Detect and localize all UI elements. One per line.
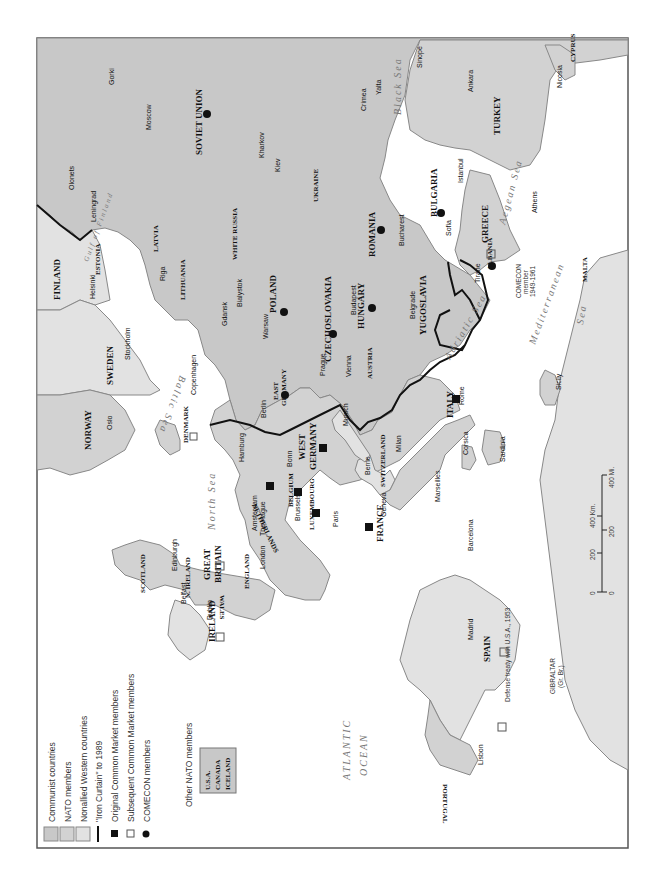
legend-label-iron-curtain: "Iron Curtain" to 1989 xyxy=(94,741,104,822)
city-stockholm: Stockholm xyxy=(124,327,131,360)
city-vienna: Vienna xyxy=(345,355,352,377)
sea-north: North Sea xyxy=(206,472,217,531)
note-albania-1: COMECON xyxy=(515,264,522,298)
label-great-britain-2: BRITAIN xyxy=(213,545,223,583)
city-edinburgh: Edinburgh xyxy=(171,539,179,571)
city-riga: Riga xyxy=(159,266,167,281)
city-olonets: Olonets xyxy=(68,165,75,190)
label-scotland: SCOTLAND xyxy=(139,554,147,593)
city-warsaw: Warsaw xyxy=(262,313,269,339)
label-wales: WALES xyxy=(218,595,226,620)
label-west-germany-1: WEST xyxy=(297,434,307,460)
legend-label-communist: Communist countries xyxy=(47,742,57,822)
note-albania-2: member xyxy=(522,269,529,294)
city-helsinki: Helsinki xyxy=(89,274,96,299)
other-nato-iceland: ICELAND xyxy=(224,758,232,790)
cm-filled-netherlands xyxy=(266,482,274,490)
label-luxembourg: LUXEMBOURG xyxy=(308,478,316,530)
label-portugal: PORTUGAL xyxy=(441,784,449,824)
label-lithuania: LITHUANIA xyxy=(179,260,187,300)
label-cyprus: CYPRUS xyxy=(569,34,577,62)
city-athens: Athens xyxy=(531,191,538,213)
label-gibraltar-note: (Gr. Br.) xyxy=(557,665,565,688)
city-oslo: Oslo xyxy=(106,416,113,431)
city-tirane: Tirane xyxy=(474,263,481,283)
label-switzerland: SWITZERLAND xyxy=(379,434,387,487)
scale-200-km: 200 xyxy=(589,549,596,560)
comecon-dot-ussr xyxy=(203,110,211,118)
city-berlin: Berlin xyxy=(260,400,267,418)
city-moscow: Moscow xyxy=(145,103,152,130)
city-nicosia: Nicosia xyxy=(556,65,563,88)
city-kiev: Kiev xyxy=(274,158,281,172)
city-gorki: Gorki xyxy=(108,68,115,85)
label-white-russia: WHITE RUSSIA xyxy=(231,208,239,260)
legend-filled-circle-icon xyxy=(143,831,150,838)
scale-0-mi: 0 xyxy=(608,591,615,595)
city-geneva: Geneva xyxy=(380,492,387,517)
cm-filled-france xyxy=(365,523,373,531)
city-crimea: Crimea xyxy=(360,88,367,111)
other-nato-canada: CANADA xyxy=(214,760,222,790)
city-yalta: Yalta xyxy=(375,79,382,95)
city-madrid: Madrid xyxy=(467,618,474,640)
comecon-dot-romania xyxy=(377,226,385,234)
label-malta: MALTA xyxy=(581,257,589,282)
city-the-hague: The Hague xyxy=(259,501,267,536)
city-berne: Berne xyxy=(364,456,371,475)
other-nato-title: Other NATO members xyxy=(184,723,194,807)
city-bucharest: Bucharest xyxy=(398,214,405,246)
comecon-dot-poland xyxy=(280,308,288,316)
city-hamburg: Hamburg xyxy=(238,433,246,462)
label-sweden: SWEDEN xyxy=(105,345,115,385)
city-brussels: Brussels xyxy=(294,494,301,521)
city-bialystok: Bialystok xyxy=(236,278,244,307)
city-milan: Milan xyxy=(395,435,402,452)
city-belgrade: Belgrade xyxy=(409,291,417,319)
europe-cold-war-map: Communist countries NATO members Nonalli… xyxy=(0,0,666,893)
label-turkey: TURKEY xyxy=(492,96,502,135)
city-budapest: Budapest xyxy=(350,285,358,315)
scale-400-km: 400 Km. xyxy=(589,504,596,528)
city-copenhagen: Copenhagen xyxy=(190,355,198,395)
label-gibraltar: GIBRALTAR xyxy=(549,658,556,694)
city-ankara: Ankara xyxy=(467,70,474,92)
legend-label-nato: NATO members xyxy=(63,761,73,822)
label-norway: NORWAY xyxy=(83,410,93,450)
legend-open-square-icon xyxy=(127,830,134,837)
city-kharkov: Kharkov xyxy=(258,132,265,158)
legend-swatch-nonallied xyxy=(76,827,90,841)
city-dublin: Dublin xyxy=(206,600,213,620)
legend-filled-square-icon xyxy=(111,830,118,837)
label-denmark: DENMARK xyxy=(182,406,190,443)
label-spain: SPAIN xyxy=(482,635,492,662)
legend-swatch-nato xyxy=(60,827,74,841)
city-paris: Paris xyxy=(332,511,339,527)
label-latvia: LATVIA xyxy=(152,225,160,252)
city-corsica: Corsica xyxy=(462,431,469,455)
sea-atlantic-1: ATLANTIC xyxy=(341,719,352,781)
city-bonn: Bonn xyxy=(286,451,293,467)
label-romania: ROMANIA xyxy=(367,212,377,257)
label-east-germany-1: EAST xyxy=(272,381,280,400)
label-greece: GREECE xyxy=(480,205,490,243)
label-czechoslovakia: CZECHOSLOVAKIA xyxy=(323,276,333,362)
city-prague: Prague xyxy=(319,353,327,376)
city-barcelona: Barcelona xyxy=(467,519,474,551)
city-sofia: Sofia xyxy=(445,220,452,236)
label-east-germany-2: GERMANY xyxy=(280,369,288,406)
cm-filled-luxembourg xyxy=(312,509,320,517)
city-munich: Munich xyxy=(342,403,349,426)
city-sinope: Sinope xyxy=(416,46,424,68)
label-great-britain-1: GREAT xyxy=(202,549,212,580)
city-gdansk: Gdansk xyxy=(221,301,228,326)
city-marseilles: Marseilles xyxy=(434,470,441,502)
label-austria: AUSTRIA xyxy=(366,347,374,379)
scale-400-mi: 400 Mi. xyxy=(608,466,615,488)
note-spain-treaty: Defense treaty with U.S.A., 1953 xyxy=(504,607,512,702)
legend-label-comecon: COMECON members xyxy=(142,740,152,822)
legend-label-nonallied: Nonallied Western countries xyxy=(79,716,89,822)
label-hungary: HUNGARY xyxy=(356,282,366,329)
scale-0-km: 0 xyxy=(589,591,596,595)
city-amsterdam: Amsterdam xyxy=(251,495,258,531)
